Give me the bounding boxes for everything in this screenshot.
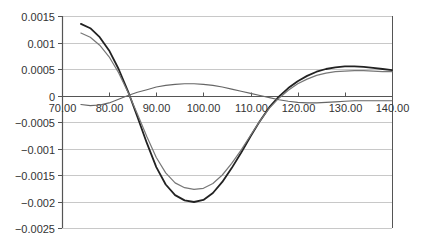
gridlines (62, 16, 393, 229)
x-tick-label: 70.00 (49, 102, 77, 114)
y-tick-label: −0.0005 (15, 117, 55, 129)
x-tick-label: 90.00 (143, 102, 171, 114)
y-axis: 0.00150.0010.00050−0.0005−0.001−0.0015−0… (15, 11, 63, 235)
line-chart: 0.00150.0010.00050−0.0005−0.001−0.0015−0… (0, 0, 423, 243)
y-tick-label: 0.0015 (21, 11, 55, 23)
x-tick-label: 130.00 (329, 102, 363, 114)
x-tick-label: 100.00 (187, 102, 221, 114)
x-tick-label: 110.00 (235, 102, 268, 114)
y-tick-label: −0.0025 (15, 223, 55, 235)
x-tick-label: 140.00 (376, 102, 410, 114)
y-tick-label: −0.002 (21, 197, 55, 209)
y-tick-label: 0.001 (27, 38, 55, 50)
y-tick-label: 0.0005 (21, 64, 55, 76)
y-tick-label: −0.001 (21, 144, 55, 156)
x-axis: 70.0080.0090.00100.00110.00120.00130.001… (49, 93, 410, 114)
y-tick-label: −0.0015 (15, 170, 55, 182)
